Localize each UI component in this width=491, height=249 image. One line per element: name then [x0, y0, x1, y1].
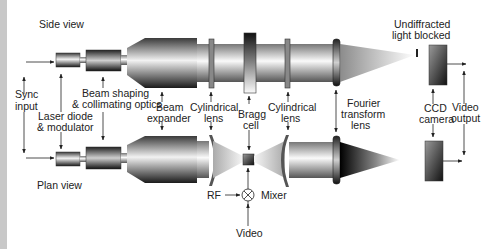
side-view-label: Side view — [39, 18, 84, 30]
beam-shaping-optics-side — [86, 50, 121, 71]
ccd-camera-plan — [425, 141, 443, 181]
cyl-lens-1-label-2: lens — [204, 112, 223, 124]
laser-diode-side — [56, 53, 80, 67]
cylindrical-lens-2-side — [285, 39, 290, 88]
focused-beam-in — [213, 141, 243, 178]
mixer-symbol — [242, 189, 254, 201]
cylindrical-lens-1-side — [209, 39, 214, 88]
rf-label: RF — [207, 189, 221, 201]
ccd-camera-side — [429, 45, 447, 85]
laser-diode-plan — [56, 152, 80, 166]
fourier-lens-plan — [333, 136, 340, 184]
beam-expander-cone-side — [127, 38, 145, 88]
undiffracted-label-2: light blocked — [392, 29, 451, 41]
plan-view-train — [56, 135, 462, 187]
diverging-beam-out — [254, 141, 285, 178]
mixer-label: Mixer — [261, 189, 287, 201]
beam-expander-label-2: expander — [147, 112, 191, 124]
cyl-lens-2-label-2: lens — [281, 112, 300, 124]
left-margin-strip — [0, 0, 7, 249]
ccd-camera-label-2: camera — [419, 113, 454, 125]
fourier-lens-label-3: lens — [351, 119, 370, 131]
bragg-cell-plan — [243, 154, 254, 165]
beam-expander-cone-plan — [127, 136, 145, 183]
beam-expander-side — [145, 38, 197, 88]
laser-diode-label-2: & modulator — [37, 121, 94, 133]
bragg-cell-side — [244, 33, 256, 93]
bragg-cell-label-2: cell — [243, 119, 259, 131]
undiffracted-stop — [416, 49, 418, 57]
diagram-canvas: Side view Plan view Sync input Laser dio… — [0, 0, 491, 249]
beam-shaping-label-2: & collimating optics — [72, 98, 162, 110]
plan-view-label: Plan view — [37, 179, 82, 191]
beam-shaping-optics-plan — [86, 147, 121, 169]
video-input-label: Video — [236, 227, 263, 239]
sync-input-label-2: input — [15, 100, 38, 112]
converging-beam-plan — [340, 142, 400, 178]
beam-tube-plan — [289, 142, 334, 178]
optical-system-diagram: Side view Plan view Sync input Laser dio… — [0, 0, 491, 249]
fourier-lens-side — [333, 39, 340, 86]
beam-tube-side — [197, 44, 334, 82]
sync-input-label-1: Sync — [15, 88, 38, 100]
beam-expander-plan — [145, 136, 197, 183]
video-output-label-2: output — [451, 112, 480, 124]
converging-beam-side — [340, 44, 415, 82]
side-view-train — [56, 33, 466, 93]
